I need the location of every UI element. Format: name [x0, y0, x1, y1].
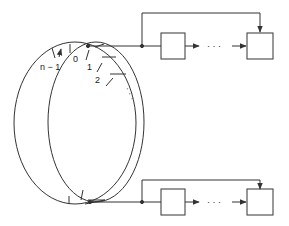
ring: [14, 42, 144, 204]
current-slot-pointer-icon: [59, 49, 61, 57]
top-bucket-chain: [86, 13, 273, 59]
tick-mark: [106, 78, 113, 86]
bottom-chain-ellipsis: · · ·: [207, 197, 221, 207]
slot-label-0: 0: [73, 54, 78, 64]
list-node-first: [161, 189, 185, 215]
ring-front-edge: [14, 42, 136, 204]
tail-pointer-line: [142, 180, 260, 202]
tail-pointer-line: [142, 13, 260, 46]
list-node-last: [247, 189, 273, 215]
slot-label-2: 2: [95, 75, 100, 85]
ring-continuation-dots: · · ·: [123, 85, 138, 102]
list-node-first: [161, 33, 185, 59]
list-node-last: [247, 33, 273, 59]
top-chain-ellipsis: · · ·: [207, 41, 221, 51]
tick-mark: [86, 50, 89, 60]
slot-label-n-minus-1: n − 1: [40, 62, 60, 72]
timing-wheel-diagram: n − 1 0 1 2 · · · · · · · · ·: [0, 0, 289, 226]
bottom-bucket-chain: [88, 180, 273, 215]
tick-mark: [97, 63, 102, 72]
ring-back-edge: [48, 42, 144, 202]
slot-label-1: 1: [87, 62, 92, 72]
tick-mark: [52, 48, 55, 58]
